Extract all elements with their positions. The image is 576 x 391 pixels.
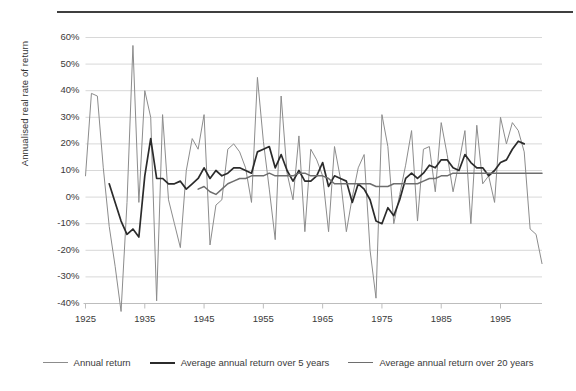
plot-area xyxy=(0,0,576,391)
legend-label: Annual return xyxy=(74,357,131,368)
figure: Annualised real rate of return 60%50%40%… xyxy=(0,0,576,391)
legend-label: Average annual return over 5 years xyxy=(181,357,330,368)
legend-item[interactable]: Average annual return over 20 years xyxy=(348,357,533,368)
legend-item[interactable]: Average annual return over 5 years xyxy=(150,357,330,368)
legend-swatch-line-icon xyxy=(348,362,373,363)
legend-item[interactable]: Annual return xyxy=(43,357,131,368)
chart-legend: Annual returnAverage annual return over … xyxy=(0,357,576,368)
series-line-1 xyxy=(109,139,524,237)
legend-swatch-line-icon xyxy=(150,362,175,364)
legend-swatch-line-icon xyxy=(43,362,68,363)
legend-label: Average annual return over 20 years xyxy=(379,357,533,368)
